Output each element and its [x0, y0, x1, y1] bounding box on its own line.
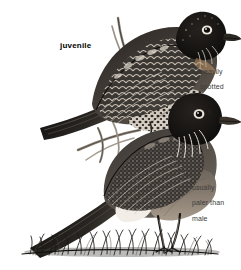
- juvenile-eye: [204, 27, 210, 33]
- robin-plate-illustration: [0, 0, 241, 270]
- female-symbol: ♀: [206, 107, 214, 117]
- female-eye: [196, 111, 202, 117]
